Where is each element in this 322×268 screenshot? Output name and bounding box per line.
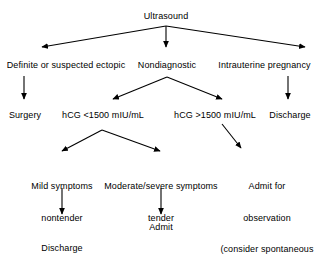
node-nondiagnostic: Nondiagnostic: [131, 60, 203, 71]
node-surgery: Surgery: [0, 110, 50, 121]
node-definite-or-suspected-ectopic: Definite or suspected ectopic: [0, 60, 132, 71]
node-admit-for-observation-line-1: Admit for: [212, 181, 322, 192]
ultrasound-flowchart: Ultrasound Definite or suspected ectopic…: [0, 0, 322, 268]
edge-nondiagnostic-to-hcg-low: [113, 77, 167, 99]
node-ultrasound: Ultrasound: [131, 11, 201, 22]
edge-ultrasound-to-definite-ectopic: [42, 26, 166, 47]
node-discharge-followup: Discharge (follow-up in 48 h): [13, 222, 111, 268]
edge-nondiagnostic-to-hcg-high: [167, 77, 222, 99]
node-hcg-low: hCG <1500 mIU/mL: [53, 110, 153, 121]
edge-ultrasound-to-intrauterine: [166, 26, 305, 47]
node-discharge-followup-line-1: Discharge: [13, 243, 111, 254]
node-admit-for-observation: Admit for observation (consider spontane…: [212, 160, 322, 268]
edge-hcg-low-to-mild-symptoms: [62, 130, 102, 151]
node-intrauterine-pregnancy: Intrauterine pregnancy: [207, 60, 322, 71]
node-moderate-severe-symptoms-line-1: Moderate/severe symptoms: [99, 181, 223, 192]
node-admit: Admit: [128, 222, 194, 233]
node-admit-for-observation-line-3: (consider spontaneous: [212, 244, 322, 255]
edge-hcg-high-to-admit-observation: [222, 124, 241, 148]
node-discharge-right: Discharge: [262, 110, 318, 121]
edge-hcg-low-to-moderate-symptoms: [102, 130, 160, 151]
node-mild-symptoms-line-1: Mild symptoms: [13, 181, 111, 192]
node-admit-for-observation-line-2: observation: [212, 213, 322, 224]
node-hcg-high: hCG >1500 mIU/mL: [165, 110, 265, 121]
